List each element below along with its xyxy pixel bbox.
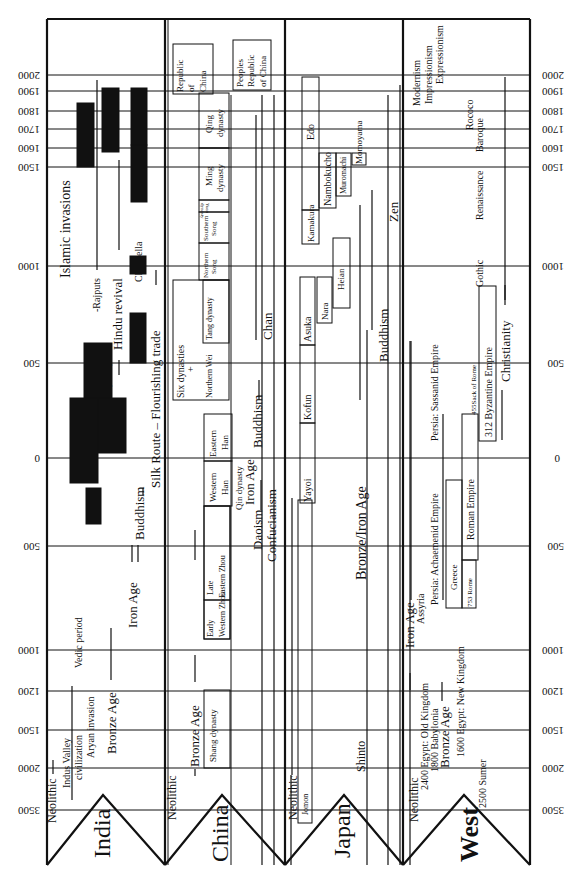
- west-assyria: Assyria: [415, 593, 426, 624]
- china-tang: Tang dynasty: [205, 297, 214, 340]
- china-eastern-han-1: Eastern: [208, 430, 218, 457]
- tick-label: 1500: [18, 725, 41, 737]
- india-andhra-1: Andhra: [74, 439, 85, 470]
- china-confucianism: Confucianism: [264, 489, 279, 562]
- japan-nara: Nara: [320, 303, 330, 321]
- india-vijayanagar: Vijayanagar: [134, 151, 145, 200]
- china-northern-wei: Northern Wei: [205, 354, 214, 398]
- tick-label: 1800: [542, 106, 565, 118]
- tick-label: 2000: [542, 763, 565, 775]
- tick-label: 2000: [18, 763, 41, 775]
- japan-momoyama: Momoyama: [354, 121, 364, 165]
- china-buddhism: Buddhism: [250, 395, 265, 448]
- india-labels: Neolithic Indus Valley civilization Arya…: [45, 98, 163, 823]
- china-western-han-1: Western: [208, 472, 218, 502]
- west-rome-753: 753 Rome: [466, 578, 474, 607]
- india-moguls: Moguls: [81, 119, 92, 150]
- india-chandella: Chandella: [133, 241, 144, 282]
- tick-label: 1500: [542, 725, 565, 737]
- tick-label: 3500: [18, 805, 41, 817]
- west-greece: Greece: [449, 565, 459, 590]
- india-iron: Iron Age: [125, 582, 140, 628]
- japan-neolithic: Neolithic: [286, 775, 300, 820]
- tick-label: 2000: [542, 70, 565, 82]
- india-indus-1: Indus Valley: [61, 738, 72, 788]
- india-rajputs: -Rajputs: [91, 278, 102, 312]
- japan-jomon: Jomon: [301, 794, 310, 815]
- west-bronze: Bronze Age: [437, 706, 452, 768]
- tick-label: 500: [23, 358, 40, 370]
- india-pallava: Pallava: [133, 325, 144, 355]
- china-iron: Iron Age: [242, 459, 257, 505]
- china-prc-3: of China: [258, 56, 268, 87]
- tick-label: 1900: [542, 86, 565, 98]
- china-northern-song-1: Northern: [202, 252, 210, 278]
- china-northern-song-2: Song: [210, 259, 218, 274]
- tick-label: 1000: [18, 261, 41, 273]
- tick-label: 1500: [542, 162, 565, 174]
- west-gothic: Gothic: [474, 259, 485, 287]
- china-western-han-2: Han: [220, 480, 230, 495]
- india-indus-2: civilization: [73, 735, 84, 780]
- india-madura: Madura: [134, 98, 145, 130]
- india-maurya: Maurya: [90, 494, 100, 522]
- japan-bronze-iron: Bronze/Iron Age: [354, 486, 369, 580]
- tick-label: 0: [554, 453, 560, 465]
- japan-nambokucho: Nambokucho: [322, 152, 333, 206]
- region-west: West: [455, 807, 484, 862]
- china-qing-1: Qing: [204, 115, 214, 134]
- tick-label: 3500: [542, 805, 565, 817]
- region-india: India: [89, 808, 115, 858]
- china-roc-2: of: [186, 85, 196, 93]
- tick-label: 1600: [18, 143, 41, 155]
- tick-label: 1000: [18, 645, 41, 657]
- china-chan: Chan: [260, 312, 275, 340]
- region-japan: Japan: [329, 803, 355, 858]
- china-bronze: Bronze Age: [187, 705, 202, 767]
- japan-muromachi: Muromachi: [339, 156, 348, 194]
- axis-right: 2000 1900 1800 1700 1600 1500 1000 500 0…: [542, 70, 565, 817]
- japan-kofun: Kofun: [302, 394, 313, 420]
- west-rococo: Rococo: [464, 99, 475, 130]
- tick-label: 500: [547, 358, 564, 370]
- japan-shinto: Shinto: [354, 741, 368, 772]
- west-baroque: Baroque: [474, 118, 485, 152]
- edo-box: [302, 77, 319, 210]
- tick-label: 0: [34, 453, 40, 465]
- japan-buddhism: Buddhism: [376, 309, 391, 362]
- china-eastern-han-2: Han: [220, 435, 230, 450]
- timeline-chart: 2000 1900 1800 1700 1600 1500 1000 500 0…: [0, 0, 571, 884]
- japan-labels: Neolithic Jomon Shinto Yayoi Bronze/Iron…: [286, 121, 401, 821]
- west-egypt-new: 1600 Egypt: New Kingdom: [455, 646, 466, 757]
- china-qing-2: dynasty: [215, 109, 225, 137]
- west-roman-empire: Roman Empire: [465, 479, 476, 540]
- axis-left: 2000 1900 1800 1700 1600 1500 1000 500 0…: [18, 70, 41, 817]
- tick-label: 1200: [18, 686, 41, 698]
- jomon-box: [298, 500, 312, 823]
- japan-edo: Edo: [305, 124, 316, 140]
- tick-label: 500: [547, 541, 564, 553]
- china-southern-song-2: Song: [210, 221, 218, 236]
- india-gupta-2: dynasty: [101, 361, 112, 392]
- tick-label: 1700: [18, 124, 41, 136]
- china-roc-1: Republic: [175, 60, 185, 93]
- tick-label: 1000: [542, 261, 565, 273]
- west-modernism: Modernism: [411, 60, 422, 106]
- china-roc-3: China: [198, 70, 208, 92]
- china-daoism: Daoism: [250, 510, 265, 550]
- west-sassanid: Persia: Sassanid Empire: [429, 344, 440, 441]
- tick-label: 1700: [542, 124, 565, 136]
- tick-label: 1800: [18, 106, 41, 118]
- west-renaissance: Renaissance: [474, 170, 485, 220]
- india-hindu-revival: Hindu revival: [110, 278, 125, 350]
- india-buddhism: Buddhism: [132, 487, 147, 540]
- japan-heian: Heian: [336, 268, 346, 290]
- japan-yayoi: Yayoi: [302, 478, 313, 502]
- india-gupta-1: Gupta: [88, 359, 99, 384]
- china-southern-song-1: Southern: [202, 215, 210, 241]
- west-achaemenid: Persia: Achaemenid Empire: [429, 493, 440, 605]
- tick-label: 500: [23, 541, 40, 553]
- west-sack-of-rome: 455Sack of Rome: [470, 365, 478, 415]
- china-yuan-2: dynasty: [200, 203, 205, 219]
- india-kushan-1: Kushan: [100, 414, 111, 445]
